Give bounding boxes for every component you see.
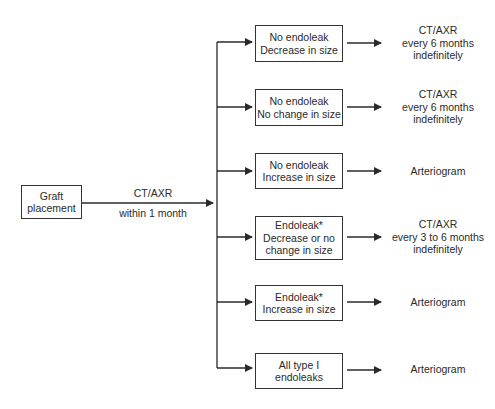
condition-node-endoleak-increase: Endoleak* Increase in size xyxy=(255,285,343,321)
condition-node-no-endoleak-decrease: No endoleak Decrease in size xyxy=(255,25,343,62)
action-ct-axr-3-to-6-months: CT/AXR every 3 to 6 months indefinitely xyxy=(378,218,495,256)
node-text: placement xyxy=(27,202,75,215)
action-arteriogram: Arteriogram xyxy=(378,361,495,377)
action-ct-axr-6-months: CT/AXR every 6 months indefinitely xyxy=(378,88,495,126)
condition-node-endoleak-decrease-or-no-change: Endoleak* Decrease or no change in size xyxy=(255,216,343,260)
node-text: Graft xyxy=(40,190,63,203)
action-arteriogram: Arteriogram xyxy=(378,163,495,179)
main-edge-label-top: CT/AXR xyxy=(118,187,188,200)
condition-node-no-endoleak-no-change: No endoleak No change in size xyxy=(255,89,343,126)
flowchart: Graft placement CT/AXR within 1 month No… xyxy=(0,0,495,409)
condition-node-no-endoleak-increase: No endoleak Increase in size xyxy=(255,153,343,189)
graft-placement-node: Graft placement xyxy=(21,185,82,219)
action-arteriogram: Arteriogram xyxy=(378,294,495,310)
condition-node-all-type-i-endoleaks: All type I endoleaks xyxy=(255,353,343,389)
action-ct-axr-6-months: CT/AXR every 6 months indefinitely xyxy=(378,24,495,62)
main-edge-label-bottom: within 1 month xyxy=(105,207,201,220)
